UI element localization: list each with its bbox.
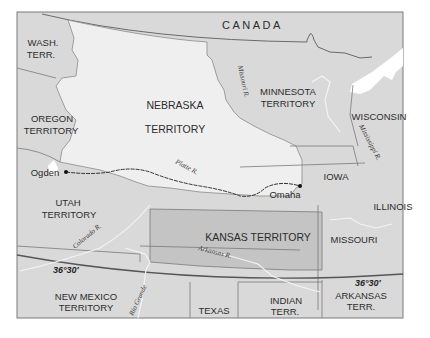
label-wash-1: WASH. (28, 37, 59, 48)
label-new-mexico-2: TERRITORY (59, 302, 114, 313)
label-minnesota-1: MINNESOTA (260, 86, 316, 97)
city-marker-omaha (298, 184, 302, 188)
label-illinois: ILLINOIS (373, 201, 412, 212)
label-missouri: MISSOURI (331, 234, 378, 245)
label-utah-1: UTAH (55, 197, 80, 208)
label-minnesota-2: TERRITORY (261, 98, 316, 109)
label-oregon-1: OREGON (31, 113, 73, 124)
label-arkansas-2: TERR. (347, 301, 376, 312)
label-texas: TEXAS (198, 305, 229, 316)
label-indian-2: TERR. (271, 306, 300, 317)
label-iowa: IOWA (324, 171, 350, 182)
label-city-omaha: Omaha (269, 189, 301, 200)
label-arkansas-1: ARKANSAS (335, 290, 387, 301)
label-latitude-east: 36°30′ (355, 278, 382, 288)
label-kansas: KANSAS TERRITORY (205, 231, 311, 243)
label-city-ogden: Ogden (31, 167, 60, 178)
label-nebraska-1: NEBRASKA (146, 99, 203, 111)
label-latitude-west: 36°30′ (53, 265, 80, 275)
label-utah-2: TERRITORY (42, 209, 97, 220)
label-indian-1: INDIAN (270, 295, 302, 306)
label-wash-2: TERR. (27, 49, 56, 60)
label-new-mexico-1: NEW MEXICO (55, 291, 117, 302)
city-marker-ogden (64, 170, 68, 174)
label-canada: CANADA (222, 19, 283, 31)
map: CANADA WASH. TERR. OREGON TERRITORY NEBR… (0, 0, 430, 338)
label-nebraska-2: TERRITORY (145, 123, 205, 135)
label-oregon-2: TERRITORY (24, 125, 79, 136)
label-wisconsin: WISCONSIN (352, 111, 407, 122)
